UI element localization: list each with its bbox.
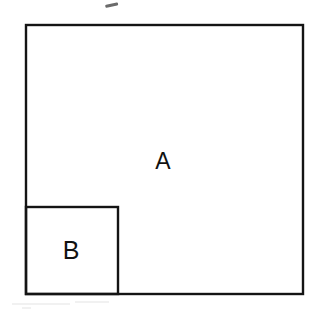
geometry-figure: A B xyxy=(0,0,322,317)
stray-dash-body xyxy=(105,2,118,8)
region-label-a: A xyxy=(155,148,171,174)
scan-artifact-group xyxy=(12,301,109,309)
region-label-b: B xyxy=(63,236,80,264)
stray-dash-mark xyxy=(105,2,118,8)
scan-speck xyxy=(12,303,70,305)
figure-canvas: A B xyxy=(0,0,322,317)
scan-speck xyxy=(22,307,31,309)
scan-speck xyxy=(75,301,109,303)
